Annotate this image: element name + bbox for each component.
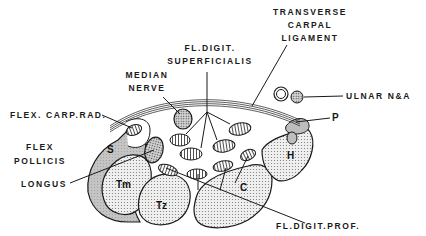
- median-nerve: [174, 109, 192, 129]
- label-capitate: C: [240, 182, 247, 193]
- label-fl-digit-superficialis-1: FL.DIGIT.: [184, 43, 235, 53]
- label-flex-carp-rad: FLEX. CARP.RAD.: [10, 110, 107, 120]
- label-fl-digit-prof: FL.DIGIT.PROF.: [276, 221, 360, 231]
- label-ulnar-na: ULNAR N&A: [346, 91, 411, 101]
- label-median-nerve-2: NERVE: [128, 83, 165, 93]
- label-transverse-carpal-ligament-3: LIGAMENT: [281, 33, 338, 43]
- label-flex-pollicis-longus-3: LONGUS: [21, 179, 67, 189]
- ulnar-artery-inner: [277, 90, 286, 99]
- ulnar-nerve: [291, 91, 303, 103]
- fl-digit-superficialis-tendon: [180, 148, 202, 160]
- label-trapezoid: Tz: [156, 200, 167, 211]
- label-p: P: [332, 112, 340, 123]
- fl-digit-prof-tendon: [239, 147, 258, 163]
- fl-digit-superficialis-tendon: [212, 139, 235, 154]
- fl-digit-superficialis-tendon: [228, 121, 252, 137]
- fl-digit-superficialis-tendon: [170, 134, 190, 146]
- label-flex-pollicis-longus-1: FLEX: [26, 142, 54, 152]
- label-median-nerve-1: MEDIAN: [125, 70, 168, 80]
- hook-of-hamate: [287, 132, 297, 144]
- label-flex-pollicis-longus-2: POLLICIS: [14, 156, 66, 166]
- label-hamate: H: [287, 150, 294, 161]
- label-transverse-carpal-ligament-1: TRANSVERSE: [273, 7, 347, 17]
- label-scaphoid: S: [107, 144, 114, 155]
- carpal-tunnel-diagram: TRANSVERSE CARPAL LIGAMENT FL.DIGIT. SUP…: [0, 0, 426, 236]
- label-fl-digit-superficialis-2: SUPERFICIALIS: [167, 56, 253, 66]
- label-trapezium: Tm: [116, 179, 131, 190]
- label-transverse-carpal-ligament-2: CARPAL: [288, 20, 332, 30]
